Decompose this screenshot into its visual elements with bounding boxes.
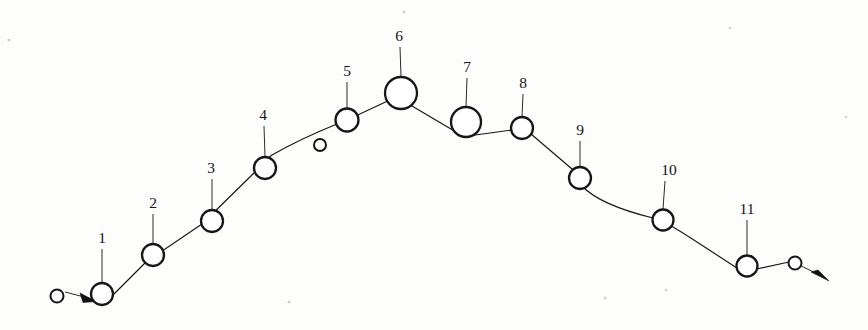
node-10-label: 10 <box>661 161 677 178</box>
node-3-label: 3 <box>207 159 215 176</box>
node-6-label: 6 <box>395 27 403 44</box>
node-6[interactable]: 6 <box>385 27 417 109</box>
node-7-circle[interactable] <box>451 107 481 137</box>
interstitial-marker-circle <box>314 139 326 151</box>
node-4-leader <box>264 126 265 157</box>
paper-noise <box>7 11 847 304</box>
node-1[interactable]: 1 <box>91 229 113 305</box>
node-8-leader <box>522 94 523 117</box>
node-4[interactable]: 4 <box>254 106 276 179</box>
node-4-circle[interactable] <box>254 157 276 179</box>
node-8[interactable]: 8 <box>511 74 533 139</box>
exit-group <box>789 257 830 282</box>
entry-group <box>51 290 97 303</box>
node-10[interactable]: 10 <box>653 161 678 231</box>
node-7-label: 7 <box>463 58 471 75</box>
node-5-label: 5 <box>343 62 351 79</box>
node-1-label: 1 <box>98 229 106 246</box>
node-6-circle[interactable] <box>385 77 417 109</box>
exit-arrow-head <box>811 270 829 281</box>
node-5-circle[interactable] <box>336 109 359 132</box>
node-2[interactable]: 2 <box>142 194 164 266</box>
node-8-circle[interactable] <box>511 117 533 139</box>
node-path-diagram: 1 2 3 4 5 6 7 <box>0 0 868 330</box>
node-10-leader <box>663 181 665 209</box>
node-1-circle[interactable] <box>91 283 113 305</box>
node-5[interactable]: 5 <box>336 62 359 132</box>
node-2-label: 2 <box>149 194 157 211</box>
node-9-label: 9 <box>576 121 584 138</box>
exit-marker-circle <box>789 257 802 270</box>
entry-marker-circle <box>51 290 64 303</box>
trajectory-path-group <box>108 99 789 300</box>
node-9[interactable]: 9 <box>569 121 591 189</box>
trajectory-path <box>108 99 789 300</box>
node-11-circle[interactable] <box>737 256 758 277</box>
node-7-leader <box>466 78 467 107</box>
node-3[interactable]: 3 <box>201 159 223 232</box>
node-11-label: 11 <box>740 200 755 217</box>
node-6-leader <box>400 47 401 77</box>
node-10-circle[interactable] <box>653 210 674 231</box>
node-11[interactable]: 11 <box>737 200 758 277</box>
node-3-circle[interactable] <box>201 210 223 232</box>
node-4-label: 4 <box>259 106 267 123</box>
node-2-circle[interactable] <box>142 244 164 266</box>
figure-canvas: 1 2 3 4 5 6 7 <box>0 0 868 330</box>
node-8-label: 8 <box>519 74 527 91</box>
node-9-circle[interactable] <box>569 167 591 189</box>
node-7[interactable]: 7 <box>451 58 481 137</box>
interstitial-group <box>314 139 326 151</box>
